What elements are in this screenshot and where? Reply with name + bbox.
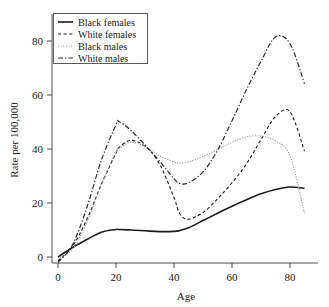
x-tick-label-40: 40 [169, 271, 181, 283]
x-tick-label-60: 60 [227, 271, 239, 283]
chart-legend: Black females White females Black males … [54, 14, 148, 64]
legend-label-white-females: White females [78, 29, 136, 40]
legend-label-black-males: Black males [78, 41, 127, 52]
y-tick-label-20: 20 [32, 197, 44, 209]
y-tick-label-80: 80 [32, 35, 44, 47]
chart-figure: 80 60 40 20 0 0 20 40 60 80 Age Rate per… [0, 0, 329, 307]
y-tick-label-60: 60 [32, 89, 44, 101]
legend-label-white-males: White males [78, 53, 128, 64]
x-tick-label-20: 20 [111, 271, 123, 283]
figure-background [0, 0, 329, 307]
x-axis-title: Age [177, 290, 195, 302]
y-tick-label-40: 40 [32, 143, 44, 155]
y-axis-title: Rate per 100,000 [8, 102, 20, 178]
legend-label-black-females: Black females [78, 17, 135, 28]
y-tick-label-0: 0 [38, 251, 44, 263]
x-tick-label-0: 0 [55, 271, 61, 283]
chart-canvas: 80 60 40 20 0 0 20 40 60 80 Age Rate per… [0, 0, 329, 307]
x-tick-label-80: 80 [285, 271, 297, 283]
